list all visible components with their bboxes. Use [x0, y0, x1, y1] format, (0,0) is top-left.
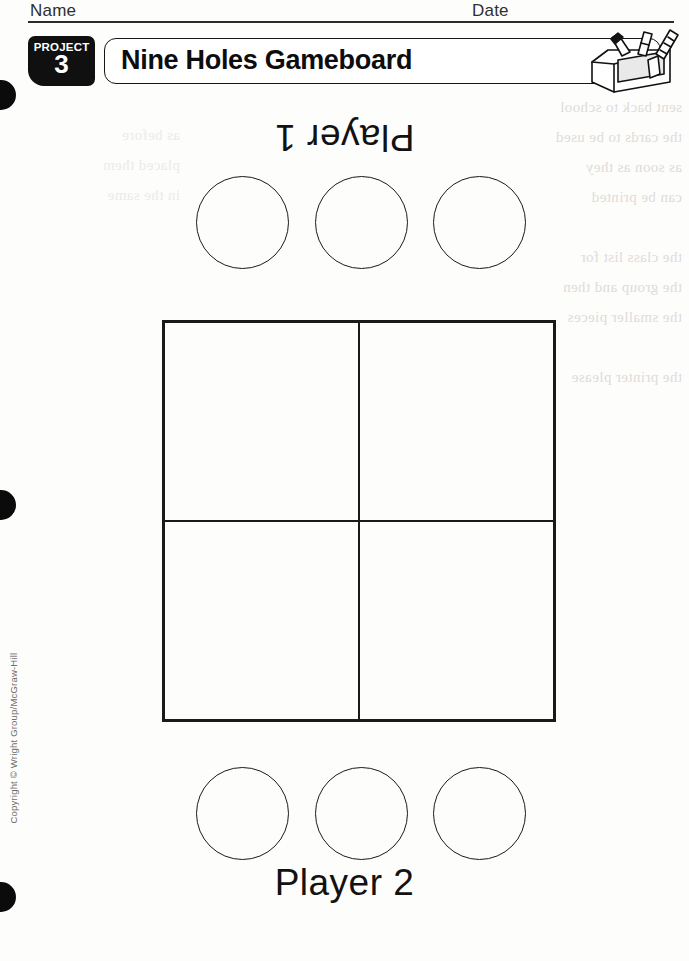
gameboard-horizontal-line: [165, 520, 553, 523]
name-field-label: Name: [30, 1, 76, 21]
player-two-label: Player 2: [0, 862, 689, 904]
game-piece-circle: [433, 176, 526, 269]
game-piece-circle: [196, 176, 289, 269]
copyright-notice: Copyright © Wright Group/McGraw-Hill: [8, 624, 19, 824]
project-badge: PROJECT 3: [28, 36, 95, 86]
player-two-piece-row: [196, 767, 526, 860]
project-badge-number: 3: [28, 51, 95, 77]
toolbox-icon: [578, 26, 684, 98]
player-one-label: Player 1: [0, 116, 689, 158]
page-title: Nine Holes Gameboard: [121, 45, 412, 76]
nine-holes-gameboard: [162, 320, 556, 722]
binding-dot: [0, 490, 16, 520]
binding-dot: [0, 80, 16, 110]
player-one-piece-row: [196, 176, 526, 269]
game-piece-circle: [433, 767, 526, 860]
game-piece-circle: [315, 767, 408, 860]
worksheet-page: sent back to school the cards to be used…: [0, 0, 689, 961]
game-piece-circle: [315, 176, 408, 269]
name-date-rule: [28, 21, 674, 23]
game-piece-circle: [196, 767, 289, 860]
date-field-label: Date: [472, 1, 509, 21]
